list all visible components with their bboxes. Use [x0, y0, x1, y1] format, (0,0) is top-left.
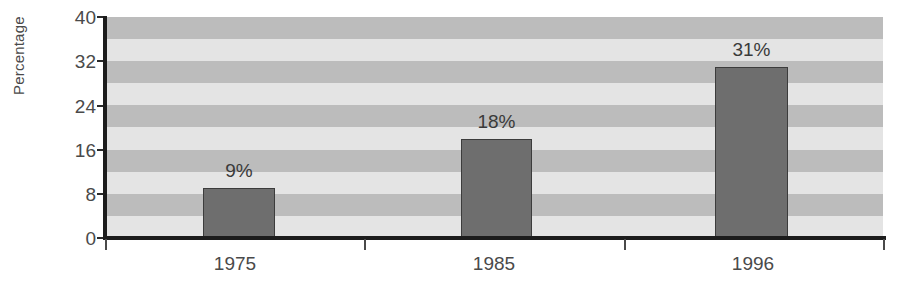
bar-value-label-1975: 9%	[203, 161, 275, 180]
y-axis-tick-label: 40	[52, 8, 96, 27]
y-axis-tick-label: 24	[52, 97, 96, 116]
y-axis-line	[103, 16, 107, 239]
x-axis-tick-mark	[883, 239, 885, 250]
y-axis-tick-label: 16	[52, 141, 96, 160]
x-axis-label-1985: 1985	[434, 254, 554, 273]
y-axis-tick-label: 32	[52, 52, 96, 71]
bar-value-label-1985: 18%	[461, 112, 533, 131]
x-axis-label-1975: 1975	[175, 254, 295, 273]
bar-chart: Percentage 40 32 24 16 8 0 9% 18% 31%	[0, 0, 921, 285]
y-axis-tick-label: 8	[52, 185, 96, 204]
y-axis-tick-label-group: 40 32 24 16 8 0	[52, 0, 96, 285]
background-band	[105, 17, 883, 39]
x-axis-tick-mark	[624, 239, 626, 250]
bar-1975[interactable]	[203, 188, 275, 238]
x-axis-line	[103, 236, 886, 240]
bar-1996[interactable]	[715, 67, 788, 238]
y-axis-title: Percentage	[10, 0, 30, 95]
bar-value-label-1996: 31%	[716, 40, 788, 59]
x-axis-tick-mark	[105, 239, 107, 250]
y-axis-tick-label: 0	[52, 229, 96, 248]
x-axis-label-1996: 1996	[693, 254, 813, 273]
bar-1985[interactable]	[461, 139, 532, 238]
x-axis-tick-mark	[364, 239, 366, 250]
